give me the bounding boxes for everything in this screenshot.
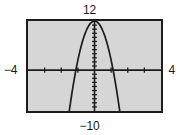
window-xmin-label: −4 [4, 64, 17, 76]
window-xmax-label: 4 [169, 64, 175, 76]
window-ymin-label: −10 [0, 120, 179, 132]
graph-figure: 12 −4 4 −10 [0, 0, 179, 135]
plot-canvas [28, 21, 161, 111]
plot-area [26, 19, 163, 113]
y-axis [92, 21, 97, 111]
window-ymax-label: 12 [0, 4, 179, 16]
y-axis-ticks [92, 25, 97, 107]
